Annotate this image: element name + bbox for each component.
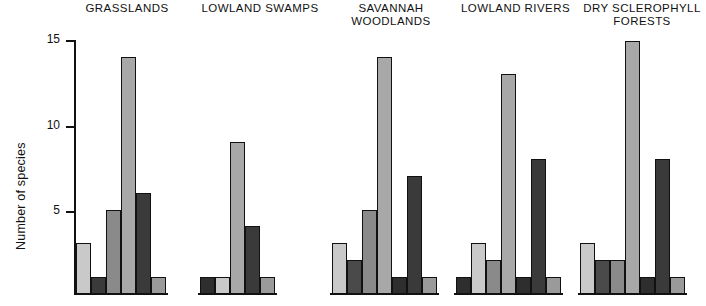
- bar: [486, 260, 501, 294]
- bar: [151, 277, 166, 294]
- bar: [76, 243, 91, 294]
- bar: [91, 277, 106, 294]
- bar: [245, 226, 260, 294]
- bar: [625, 41, 640, 295]
- bar: [136, 193, 151, 294]
- bar: [215, 277, 230, 294]
- bar: [531, 159, 546, 294]
- bar: [516, 277, 531, 294]
- bar: [595, 260, 610, 294]
- bar: [106, 210, 121, 295]
- bar: [121, 57, 136, 294]
- bar: [456, 277, 471, 294]
- bar: [392, 277, 407, 294]
- bar: [640, 277, 655, 294]
- bar: [200, 277, 215, 294]
- bar: [471, 243, 486, 294]
- bar: [362, 210, 377, 295]
- bar: [670, 277, 685, 294]
- bar: [422, 277, 437, 294]
- bar: [580, 243, 595, 294]
- species-bar-chart: GRASSLANDS LOWLAND SWAMPS SAVANNAH WOODL…: [0, 0, 706, 306]
- bar: [332, 243, 347, 294]
- bar: [377, 57, 392, 294]
- bar: [347, 260, 362, 294]
- plot-area: [0, 0, 706, 306]
- bar: [407, 176, 422, 294]
- bar: [546, 277, 561, 294]
- bar: [610, 260, 625, 294]
- bar: [655, 159, 670, 294]
- bar: [501, 74, 516, 294]
- bar: [260, 277, 275, 294]
- bar: [230, 142, 245, 294]
